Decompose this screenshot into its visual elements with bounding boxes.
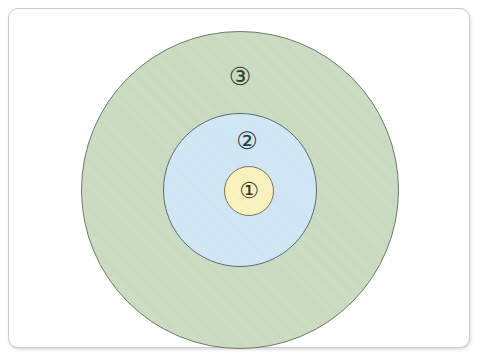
figure-canvas: ③ ② ① <box>0 0 488 364</box>
zone-outer-label: ③ <box>222 62 258 90</box>
figure-frame: ③ ② ① <box>8 8 470 348</box>
zone-middle-label: ② <box>229 127 265 155</box>
zone-inner-label: ① <box>231 177 267 204</box>
